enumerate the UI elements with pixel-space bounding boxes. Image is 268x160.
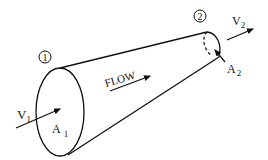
flow-label: FLOW [103,69,137,89]
v2-label: V2 [232,14,245,30]
nozzle-top-edge [60,32,207,68]
nozzle-bottom-edge [68,57,219,155]
a2-label: A2 [227,62,241,78]
inlet-section-ellipse [36,68,84,156]
a1-label: A1 [52,122,68,139]
section-2-label: 2 [198,11,203,22]
v2-arrow [227,29,253,40]
section-1-label: 1 [43,52,48,63]
nozzle-diagram: 1 2 FLOW V1 A1 V2 A2 [0,0,268,160]
outlet-section-back-arc [204,32,212,56]
v1-label: V1 [17,107,31,124]
